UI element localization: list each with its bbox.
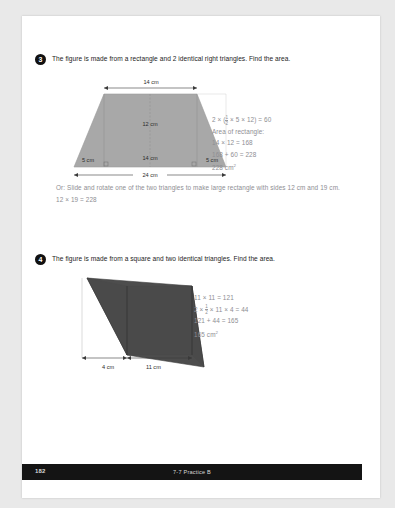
label-top-14cm: 14 cm [143, 79, 159, 85]
work-line: 121 + 44 = 165 [194, 315, 248, 327]
label-left-leg-5cm: 5 cm [82, 157, 94, 163]
work-line: 168 + 60 = 228 [212, 149, 271, 161]
label-height-12cm: 12 cm [142, 121, 158, 127]
problem-number-badge-4: 4 [35, 254, 46, 265]
problem-number-badge-3: 3 [35, 54, 46, 65]
problem-4-heading: 4 The figure is made from a square and t… [22, 254, 380, 265]
work-line: Area of rectangle: [212, 126, 271, 138]
label-inner-bottom-14cm: 14 cm [142, 155, 158, 161]
work-line: 2 × (12 × 5 × 12) = 60 [212, 114, 271, 126]
work-line: 11 × 11 = 121 [194, 292, 248, 304]
problem-3-work: 2 × (12 × 5 × 12) = 60 Area of rectangle… [212, 114, 271, 174]
work-line: 165 cm2 [194, 327, 248, 341]
work-line: 14 × 12 = 168 [212, 137, 271, 149]
footer-lesson-label: 7-7 Practice B [22, 469, 362, 475]
problem-3-alt-note: Or: Slide and rotate one of the two tria… [56, 182, 346, 205]
problem-3-heading: 3 The figure is made from a rectangle an… [22, 54, 380, 65]
work-line: 2 × 12 × 11 × 4 = 44 [194, 304, 248, 316]
problem-4-prompt: The figure is made from a square and two… [52, 254, 275, 264]
problem-3: 3 The figure is made from a rectangle an… [22, 54, 380, 65]
problem-3-prompt: The figure is made from a rectangle and … [52, 54, 290, 64]
page-footer-bar: 182 7-7 Practice B [22, 464, 362, 480]
problem-4-work: 11 × 11 = 121 2 × 12 × 11 × 4 = 44 121 +… [194, 292, 248, 340]
worksheet-page: 3 The figure is made from a rectangle an… [22, 16, 380, 498]
label-bottom-24cm: 24 cm [142, 172, 158, 178]
label-bottom-11cm: 11 cm [146, 364, 161, 370]
label-left-base-4cm: 4 cm [102, 364, 114, 370]
work-line: 228 cm2 [212, 160, 271, 174]
problem-4: 4 The figure is made from a square and t… [22, 254, 380, 265]
